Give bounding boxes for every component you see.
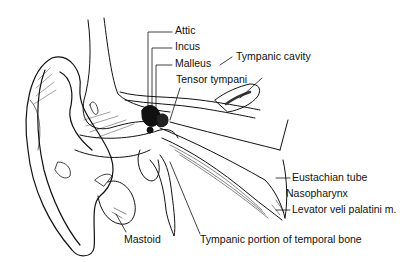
eustachian-tube bbox=[160, 120, 288, 220]
label-tensor-tympani: Tensor tympani bbox=[176, 73, 247, 85]
mastoid bbox=[98, 181, 135, 224]
label-tympanic-cavity: Tympanic cavity bbox=[236, 50, 311, 62]
ear-canal bbox=[75, 18, 178, 186]
label-tympanic-portion: Tympanic portion of temporal bone bbox=[200, 233, 362, 245]
tympanic-cavity bbox=[120, 84, 260, 118]
label-eustachian-tube: Eustachian tube bbox=[292, 171, 367, 183]
label-mastoid: Mastoid bbox=[124, 233, 161, 245]
label-nasopharynx: Nasopharynx bbox=[286, 187, 348, 199]
label-levator-veli-palatini: Levator veli palatini m. bbox=[292, 203, 396, 215]
ossicles bbox=[142, 106, 168, 134]
label-attic: Attic bbox=[175, 24, 195, 36]
label-incus: Incus bbox=[175, 40, 200, 52]
label-malleus: Malleus bbox=[175, 57, 211, 69]
styloid-process bbox=[138, 150, 175, 236]
ear-anatomy-illustration bbox=[0, 0, 411, 262]
